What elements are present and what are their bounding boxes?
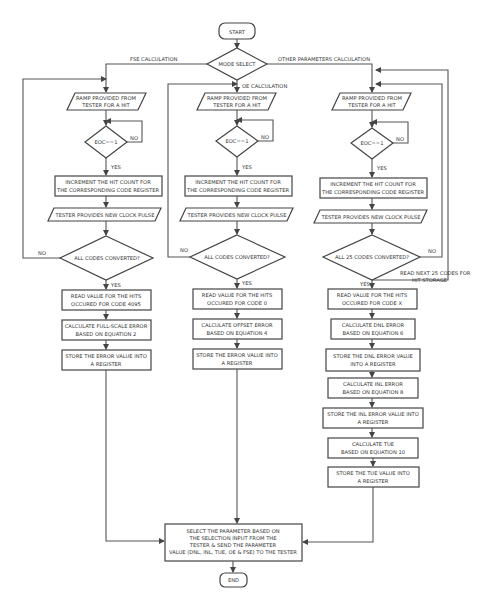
other-all-codes-yes-label: YES <box>359 281 370 287</box>
final-line4: VALUE (DNL, INL, TUE, OE & FSE) TO THE T… <box>169 549 297 555</box>
inl-store-line2: A REGISTER <box>358 419 389 425</box>
fse-eoc-label: EOC==1 <box>95 139 118 145</box>
other-all-codes-label: ALL 25 CODES CONVERTED? <box>335 254 409 260</box>
oe-all-codes-yes-label: YES <box>241 280 252 286</box>
other-eoc-decision: EOC==1 <box>351 128 393 159</box>
start-terminal: START <box>219 23 255 39</box>
fse-all-codes-yes-label: YES <box>110 282 121 288</box>
oe-eoc-no-label: NO <box>261 134 269 140</box>
end-terminal: END <box>220 573 247 587</box>
dnl-calc-line1: CALCULATE DNL ERROR <box>342 322 405 328</box>
other-next-codes-line2: HIT STORAGE <box>412 277 447 283</box>
other-next-codes-line1: READ NEXT 25 CODES FOR <box>400 270 471 276</box>
oe-inc-line2: THE CORRESPONDING CODE REGISTER <box>186 187 289 193</box>
fse-eoc-decision: EOC==1 <box>85 126 127 158</box>
fse-all-codes-decision: ALL CODES CONVERTED? <box>60 236 153 280</box>
tue-store-line2: A REGISTER <box>358 478 389 484</box>
oe-store-process: STORE THE ERROR VALUE INTO A REGISTER <box>193 349 282 369</box>
other-ramp-line2: TESTER FOR A HIT <box>347 102 396 108</box>
fse-all-codes-no-label: NO <box>38 250 46 256</box>
end-label: END <box>228 577 239 583</box>
oe-all-codes-no-label: NO <box>180 247 188 253</box>
other-clock-input: TESTER PROVIDES NEW CLOCK PULSE <box>314 210 427 223</box>
fse-clock-input: TESTER PROVIDES NEW CLOCK PULSE <box>48 208 161 221</box>
oe-increment-process: INCREMENT THE HIT COUNT FOR THE CORRESPO… <box>185 176 292 196</box>
other-tue-calc-process: CALCULATE TUE BASED ON EQUATION 10 <box>328 438 418 458</box>
oe-read-process: READ VALUE FOR THE HITS OCCURED FOR CODE… <box>193 289 282 309</box>
oe-clock-input: TESTER PROVIDES NEW CLOCK PULSE <box>180 208 293 221</box>
fse-eoc-no-label: NO <box>130 135 138 141</box>
final-line3: TESTER & SEND THE PARAMETER <box>189 542 277 548</box>
other-read-line2: OCCURED FOR CODE X <box>342 300 403 306</box>
inl-calc-line1: CALCULATE INL ERROR <box>343 381 403 387</box>
fse-ramp-line1: RAMP PROVIDED FROM <box>76 95 136 101</box>
fse-clock-label: TESTER PROVIDES NEW CLOCK PULSE <box>55 212 155 218</box>
fse-ramp-line2: TESTER FOR A HIT <box>81 102 130 108</box>
final-line1: SELECT THE PARAMETER BASED ON <box>186 528 279 534</box>
other-inl-store-process: STORE THE INL ERROR VALUE INTO A REGISTE… <box>323 408 423 428</box>
other-branch-label: OTHER PARAMETERS CALCULATION <box>278 56 370 62</box>
oe-all-codes-decision: ALL CODES CONVERTED? <box>190 235 285 279</box>
dnl-store-line1: STORE THE DNL ERROR VALUE <box>333 353 413 359</box>
fse-store-line2: A REGISTER <box>91 361 122 367</box>
oe-eoc-decision: EOC==1 <box>216 126 258 157</box>
dnl-calc-line2: BASED ON EQUATION 6 <box>343 330 404 336</box>
other-to-final-connector <box>303 487 373 542</box>
flowchart: START MODE SELECT FSE CALCULATION OE CAL… <box>0 0 484 606</box>
oe-read-line1: READ VALUE FOR THE HITS <box>202 292 272 298</box>
other-eoc-label: EOC==1 <box>361 140 384 146</box>
fse-store-line1: STORE THE ERROR VALUE INTO <box>65 353 147 359</box>
final-line2: THE SELECTION INPUT FROM THE <box>189 535 277 541</box>
fse-read-line1: READ VALUE FOR THE HITS <box>71 293 141 299</box>
fse-read-process: READ VALUE FOR THE HITS OCCURED FOR CODE… <box>62 290 151 310</box>
fse-branch-connector <box>106 64 207 92</box>
oe-store-line2: A REGISTER <box>222 360 253 366</box>
fse-increment-process: INCREMENT THE HIT COUNT FOR THE CORRESPO… <box>55 176 162 196</box>
dnl-store-line2: INTO A REGISTER <box>350 361 396 367</box>
fse-calc-line1: CALCULATE FULL-SCALE ERROR <box>65 323 148 329</box>
other-eoc-yes-label: YES <box>376 165 387 171</box>
other-ramp-input: RAMP PROVIDED FROM TESTER FOR A HIT <box>332 93 411 110</box>
tue-calc-line1: CALCULATE TUE <box>352 441 394 447</box>
oe-ramp-line2: TESTER FOR A HIT <box>212 102 261 108</box>
oe-inc-line1: INCREMENT THE HIT COUNT FOR <box>195 179 281 185</box>
oe-calc-process: CALCULATE OFFSET ERROR BASED ON EQUATION… <box>193 319 282 339</box>
fse-read-line2: OCCURED FOR CODE 4095 <box>71 301 141 307</box>
oe-ramp-input: RAMP PROVIDED FROM TESTER FOR A HIT <box>197 93 276 110</box>
other-dnl-calc-process: CALCULATE DNL ERROR BASED ON EQUATION 6 <box>331 319 415 339</box>
tue-calc-line2: BASED ON EQUATION 10 <box>341 449 405 455</box>
oe-eoc-yes-label: YES <box>241 164 252 170</box>
oe-branch-label: OE CALCULATION <box>242 83 287 89</box>
fse-calc-line2: BASED ON EQUATION 2 <box>76 331 137 337</box>
oe-clock-label: TESTER PROVIDES NEW CLOCK PULSE <box>187 212 287 218</box>
other-dnl-store-process: STORE THE DNL ERROR VALUE INTO A REGISTE… <box>326 349 420 371</box>
other-read-line1: READ VALUE FOR THE HITS <box>337 292 407 298</box>
other-inc-line1: INCREMENT THE HIT COUNT FOR <box>330 181 416 187</box>
mode-select-label: MODE SELECT <box>218 61 256 67</box>
oe-calc-line1: CALCULATE OFFSET ERROR <box>201 322 273 328</box>
fse-calc-process: CALCULATE FULL-SCALE ERROR BASED ON EQUA… <box>62 320 151 340</box>
oe-ramp-line1: RAMP PROVIDED FROM <box>207 95 267 101</box>
other-all-codes-no-label: NO <box>428 248 436 254</box>
fse-inc-line1: INCREMENT THE HIT COUNT FOR <box>65 179 151 185</box>
tue-store-line1: STORE THE TUE VALUE INTO <box>336 470 410 476</box>
fse-store-process: STORE THE ERROR VALUE INTO A REGISTER <box>62 350 151 370</box>
other-inc-line2: THE CORRESPONDING CODE REGISTER <box>321 189 424 195</box>
fse-to-final-connector <box>106 370 164 541</box>
inl-store-line1: STORE THE INL ERROR VALUE INTO <box>327 411 419 417</box>
fse-branch-label: FSE CALCULATION <box>130 56 178 62</box>
oe-read-line2: OCCURED FOR CODE 0 <box>207 300 267 306</box>
fse-all-codes-label: ALL CODES CONVERTED? <box>74 255 140 261</box>
oe-calc-line2: BASED ON EQUATION 4 <box>207 330 269 336</box>
inl-calc-line2: BASED ON EQUATION 8 <box>343 389 404 395</box>
oe-all-codes-label: ALL CODES CONVERTED? <box>204 254 270 260</box>
fse-eoc-yes-label: YES <box>110 164 121 170</box>
oe-eoc-label: EOC==1 <box>226 138 249 144</box>
fse-inc-line2: THE CORRESPONDING CODE REGISTER <box>56 187 159 193</box>
other-clock-label: TESTER PROVIDES NEW CLOCK PULSE <box>321 214 421 220</box>
other-ramp-line1: RAMP PROVIDED FROM <box>342 95 402 101</box>
other-eoc-no-label: NO <box>396 136 404 142</box>
fse-ramp-input: RAMP PROVIDED FROM TESTER FOR A HIT <box>67 93 146 110</box>
other-read-process: READ VALUE FOR THE HITS OCCURED FOR CODE… <box>328 289 417 309</box>
final-select-process: SELECT THE PARAMETER BASED ON THE SELECT… <box>165 524 302 561</box>
